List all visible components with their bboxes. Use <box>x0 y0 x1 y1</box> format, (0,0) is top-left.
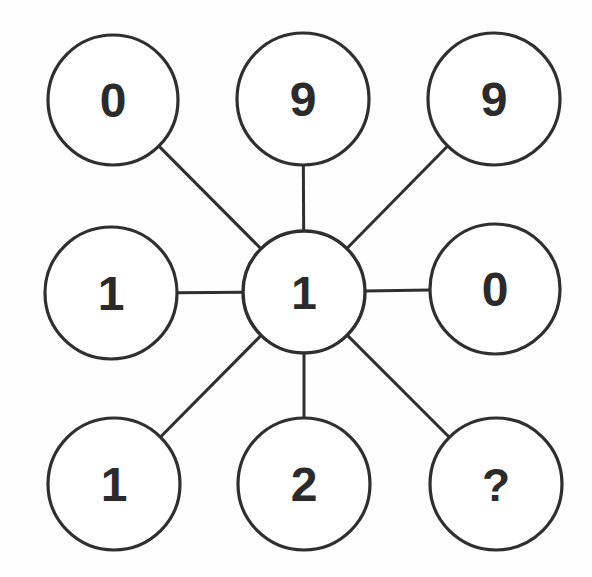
node-label-top-center: 9 <box>290 76 317 124</box>
node-label-center: 1 <box>291 270 317 316</box>
node-label-middle-right: 0 <box>482 266 509 314</box>
node-label-bottom-left: 1 <box>101 461 128 509</box>
spoke-top-right <box>346 145 448 249</box>
node-label-top-right: 9 <box>481 76 508 124</box>
spoke-top-left <box>158 145 262 249</box>
node-unknown-label-bottom-right: ? <box>482 462 510 508</box>
node-label-middle-left: 1 <box>98 270 125 318</box>
node-label-top-left: 0 <box>100 77 127 125</box>
node-label-bottom-center: 2 <box>291 461 318 509</box>
spoke-bottom-right <box>346 334 450 438</box>
spoke-bottom-left <box>160 335 262 438</box>
puzzle-canvas: 10991012? <box>0 0 592 577</box>
spoke-middle-right <box>364 290 431 291</box>
